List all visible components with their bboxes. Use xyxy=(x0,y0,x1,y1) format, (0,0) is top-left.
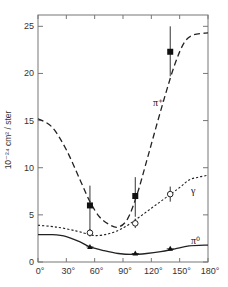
y-axis-ticks: 0510152025 xyxy=(24,21,208,267)
y-tick-label: 0 xyxy=(29,257,34,267)
x-tick-label: 150° xyxy=(172,266,191,276)
y-tick-label: 5 xyxy=(29,210,34,220)
x-tick-label: 90° xyxy=(118,266,132,276)
pi-plus-square-marker xyxy=(167,49,173,55)
x-tick-label: 120° xyxy=(144,266,163,276)
x-tick-label: 180° xyxy=(201,266,220,276)
cross-section-chart: 0°30°60°90°120°150°180° 0510152025 π⁺γπ⁰… xyxy=(0,0,228,287)
x-tick-label: 60° xyxy=(90,266,104,276)
x-tick-label: 30° xyxy=(62,266,76,276)
y-tick-label: 25 xyxy=(24,21,34,31)
pi-zero-triangle-marker xyxy=(167,246,173,251)
curves xyxy=(38,33,208,255)
pi-plus-square-marker xyxy=(87,202,93,208)
data-points xyxy=(86,26,173,255)
x-tick-label: 0° xyxy=(36,266,45,276)
y-tick-label: 20 xyxy=(24,68,34,78)
y-axis-label: 10⁻²⁴ cm² / ster xyxy=(3,110,13,169)
series-labels: π⁺γπ⁰ xyxy=(153,97,200,246)
pi-plus-square-marker xyxy=(132,193,138,199)
pi-zero-curve xyxy=(38,235,208,255)
y-tick-label: 15 xyxy=(24,116,34,126)
pi-plus-label: π⁺ xyxy=(153,97,163,108)
pi-zero-triangle-marker xyxy=(132,251,138,256)
gamma-circle-marker xyxy=(87,230,93,236)
gamma-label: γ xyxy=(190,185,196,196)
pi-plus-curve xyxy=(38,33,208,227)
y-tick-label: 10 xyxy=(24,163,34,173)
gamma-curve xyxy=(38,175,208,235)
gamma-circle-marker xyxy=(132,221,138,227)
pi-zero-label: π⁰ xyxy=(191,235,200,246)
gamma-circle-marker xyxy=(167,191,173,197)
